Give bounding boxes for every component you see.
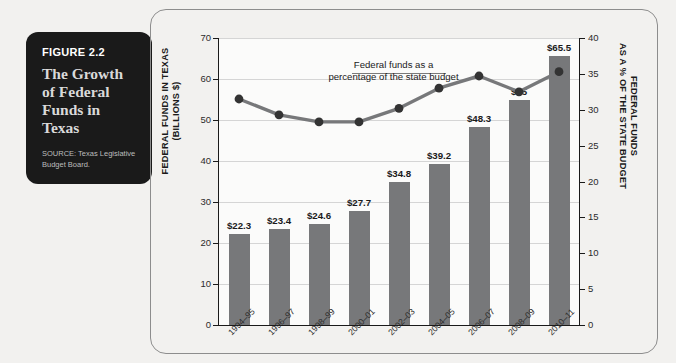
bar bbox=[549, 56, 570, 325]
right-tick-label: 5 bbox=[588, 283, 618, 294]
bar-value-label: $55 bbox=[493, 86, 545, 97]
left-tick-label: 0 bbox=[181, 319, 211, 330]
chart-annotation: Federal funds as a percentage of the sta… bbox=[311, 59, 476, 83]
right-tick-mark bbox=[580, 74, 585, 75]
right-tick-label: 30 bbox=[588, 104, 618, 115]
right-tick-label: 25 bbox=[588, 140, 618, 151]
right-tick-mark bbox=[580, 289, 585, 290]
annotation-line-1: Federal funds as a bbox=[354, 59, 433, 70]
left-tick-label: 70 bbox=[181, 32, 211, 43]
left-axis-title: FEDERAL FUNDS IN TEXAS (BILLIONS $) bbox=[160, 26, 182, 196]
right-tick-label: 10 bbox=[588, 247, 618, 258]
right-axis-title-line-2: AS A % OF THE STATE BUDGET bbox=[618, 43, 628, 189]
bar bbox=[469, 127, 490, 325]
right-tick-label: 40 bbox=[588, 32, 618, 43]
right-tick-mark bbox=[580, 182, 585, 183]
bar bbox=[429, 164, 450, 325]
right-tick-label: 0 bbox=[588, 319, 618, 330]
chart-container: 010203040506070 0510152025303540 $22.3$2… bbox=[0, 0, 676, 363]
left-axis-title-line-2: (BILLIONS $) bbox=[171, 81, 181, 140]
left-tick-label: 20 bbox=[181, 237, 211, 248]
gridline bbox=[219, 38, 579, 39]
left-tick-mark bbox=[213, 243, 218, 244]
left-tick-mark bbox=[213, 284, 218, 285]
bar bbox=[389, 182, 410, 325]
left-tick-mark bbox=[213, 161, 218, 162]
bar-value-label: $39.2 bbox=[413, 150, 465, 161]
bar-value-label: $34.8 bbox=[373, 168, 425, 179]
left-tick-mark bbox=[213, 38, 218, 39]
left-tick-label: 40 bbox=[181, 155, 211, 166]
left-tick-label: 60 bbox=[181, 73, 211, 84]
left-axis-line bbox=[218, 38, 219, 325]
bar bbox=[509, 100, 530, 326]
right-tick-mark bbox=[580, 217, 585, 218]
right-tick-mark bbox=[580, 325, 585, 326]
left-tick-mark bbox=[213, 79, 218, 80]
right-tick-mark bbox=[580, 253, 585, 254]
right-tick-mark bbox=[580, 146, 585, 147]
left-tick-mark bbox=[213, 202, 218, 203]
left-tick-mark bbox=[213, 120, 218, 121]
right-axis-title-line-1: FEDERAL FUNDS bbox=[629, 76, 639, 156]
right-tick-mark bbox=[580, 38, 585, 39]
right-tick-label: 35 bbox=[588, 68, 618, 79]
bar-value-label: $48.3 bbox=[453, 113, 505, 124]
left-axis-title-line-1: FEDERAL FUNDS IN TEXAS bbox=[160, 48, 170, 175]
bar-value-label: $24.6 bbox=[293, 210, 345, 221]
right-axis-title: FEDERAL FUNDS AS A % OF THE STATE BUDGET bbox=[617, 31, 639, 201]
right-tick-label: 15 bbox=[588, 211, 618, 222]
bar-value-label: $65.5 bbox=[533, 42, 585, 53]
bar-value-label: $27.7 bbox=[333, 197, 385, 208]
left-tick-label: 10 bbox=[181, 278, 211, 289]
right-tick-label: 20 bbox=[588, 176, 618, 187]
left-tick-label: 30 bbox=[181, 196, 211, 207]
right-tick-mark bbox=[580, 110, 585, 111]
left-tick-label: 50 bbox=[181, 114, 211, 125]
annotation-line-2: percentage of the state budget bbox=[328, 71, 458, 82]
left-tick-mark bbox=[213, 325, 218, 326]
